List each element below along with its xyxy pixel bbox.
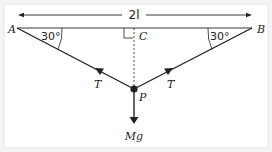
label-c: C bbox=[139, 30, 148, 43]
label-b: B bbox=[256, 23, 265, 36]
label-a: A bbox=[7, 23, 16, 36]
panel-border bbox=[4, 4, 268, 148]
angle-label-right: 30° bbox=[210, 30, 230, 43]
diagram-canvas: 2l A B C P 30° 30° T T Mg bbox=[0, 0, 272, 152]
label-p: P bbox=[138, 91, 147, 104]
force-diagram: 2l A B C P 30° 30° T T Mg bbox=[0, 0, 272, 152]
dimension-label: 2l bbox=[129, 8, 140, 22]
angle-label-left: 30° bbox=[41, 30, 61, 43]
weight-label: Mg bbox=[124, 130, 143, 143]
